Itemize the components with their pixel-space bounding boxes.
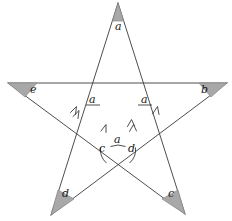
interior-label-left-upper-a: a [89,94,96,105]
chord-right-to-bottom-left [51,83,227,215]
star-diagram-svg [0,0,232,221]
double-arrow-inner-right [128,120,137,132]
vertex-label-right: b [201,84,208,95]
single-arrow-inner-left [101,125,106,133]
chevron-mark [153,107,160,115]
chord-top-to-bottom-left [51,3,118,215]
vertex-label-top: a [115,21,122,32]
vertex-label-bottom-right: c [168,188,174,199]
single-arrow-outer-right [153,107,160,115]
vertex-label-left: e [30,84,37,95]
chevron-mark [101,125,106,133]
interior-label-center-c: c [99,143,105,154]
shaded-angle-wedges [8,3,227,215]
interior-label-center-d: d [128,143,135,154]
chevron-mark [130,125,137,132]
double-arrow-outer-left [71,107,80,119]
wedge-top-apex [113,3,124,21]
interior-label-center-a: a [114,134,121,145]
star-chords [8,3,227,215]
chord-left-to-bottom-right [8,83,185,214]
geometry-figure: a e b d c a a a c d [0,0,232,221]
vertex-label-bottom-left: d [62,188,69,199]
chord-top-to-bottom-right [118,3,185,214]
interior-label-right-upper-a: a [141,94,148,105]
